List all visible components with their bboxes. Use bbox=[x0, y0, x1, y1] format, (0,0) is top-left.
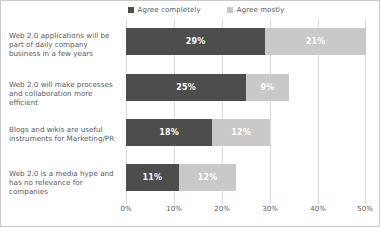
bar-segment-agree-mostly: 9% bbox=[246, 74, 289, 101]
x-axis: 0% 10% 20% 30% 40% 50% bbox=[126, 199, 366, 219]
stacked-bar-chart: Agree completely Agree mostly Web 2.0 ap… bbox=[0, 0, 380, 227]
bar-row-3: 11% 12% bbox=[126, 164, 366, 191]
bar-segment-agree-completely: 11% bbox=[126, 164, 179, 191]
plot-area: 29% 21% 25% 9% 18% 12% 11% bbox=[126, 19, 366, 199]
bar-value-label: 25% bbox=[176, 84, 196, 92]
x-tick-label-1: 10% bbox=[166, 206, 182, 213]
bar-value-label: 11% bbox=[143, 174, 163, 182]
square-marker-icon bbox=[227, 7, 233, 13]
x-tick-mark bbox=[270, 199, 271, 204]
bar-segment-agree-mostly: 21% bbox=[265, 28, 366, 55]
x-tick-mark bbox=[318, 199, 319, 204]
square-marker-icon bbox=[128, 7, 134, 13]
x-tick-label-3: 30% bbox=[262, 206, 278, 213]
x-tick-mark bbox=[174, 199, 175, 204]
bar-segment-agree-completely: 29% bbox=[126, 28, 265, 55]
bar-row-0: 29% 21% bbox=[126, 28, 366, 55]
category-label-0: Web 2.0 applications will be part of dai… bbox=[9, 31, 121, 58]
bar-segment-agree-mostly: 12% bbox=[179, 164, 237, 191]
x-tick-label-4: 40% bbox=[310, 206, 326, 213]
category-label-2: Blogs and wikis are useful instruments f… bbox=[9, 125, 121, 143]
category-label-1: Web 2.0 will make processes and collabor… bbox=[9, 80, 121, 107]
bar-value-label: 18% bbox=[159, 129, 179, 137]
legend-label: Agree mostly bbox=[237, 7, 285, 14]
x-tick-label-2: 20% bbox=[214, 206, 230, 213]
bar-row-2: 18% 12% bbox=[126, 119, 366, 146]
x-tick-mark bbox=[222, 199, 223, 204]
bar-value-label: 9% bbox=[261, 84, 275, 92]
legend-label: Agree completely bbox=[138, 7, 201, 14]
x-tick-mark bbox=[365, 199, 366, 204]
bar-value-label: 21% bbox=[306, 38, 326, 46]
category-label-3: Web 2.0 is a media hype and has no relev… bbox=[9, 169, 121, 196]
legend-item-agree-mostly: Agree mostly bbox=[227, 7, 285, 14]
bar-segment-agree-mostly: 12% bbox=[212, 119, 270, 146]
chart-legend: Agree completely Agree mostly bbox=[1, 3, 380, 17]
x-tick-label-5: 50% bbox=[357, 206, 373, 213]
bar-row-1: 25% 9% bbox=[126, 74, 366, 101]
bar-value-label: 12% bbox=[198, 174, 218, 182]
legend-item-agree-completely: Agree completely bbox=[128, 7, 201, 14]
bar-value-label: 29% bbox=[186, 38, 206, 46]
x-tick-label-0: 0% bbox=[120, 206, 131, 213]
x-tick-mark bbox=[126, 199, 127, 204]
bar-segment-agree-completely: 18% bbox=[126, 119, 212, 146]
bar-value-label: 12% bbox=[231, 129, 251, 137]
bar-segment-agree-completely: 25% bbox=[126, 74, 246, 101]
